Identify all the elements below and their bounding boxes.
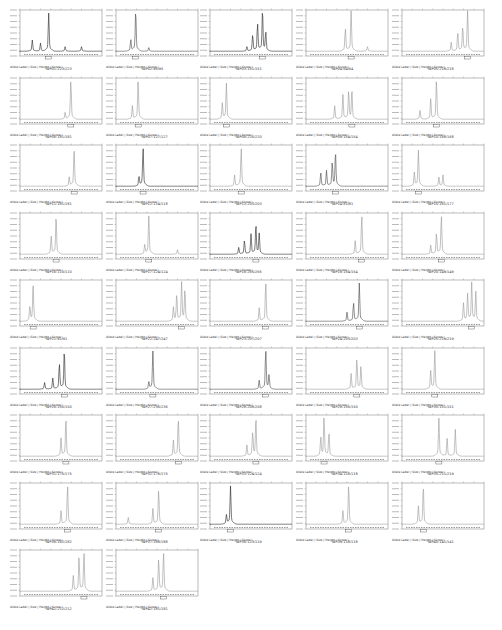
trace-plot — [198, 139, 294, 199]
electropherogram-panel: Allele Label | Size | Height | Score |WP… — [390, 207, 486, 275]
trace-plot — [104, 409, 200, 469]
trace-plot — [294, 409, 390, 469]
sample-label: WP23:207/207 — [236, 337, 262, 341]
trace-plot — [8, 274, 104, 334]
electropherogram-panel: Allele Label | Size | Height | Score |WP… — [104, 139, 200, 207]
sample-label: WP02:95/95 — [142, 67, 163, 71]
electropherogram-panel: Allele Label | Size | Height | Score |WP… — [8, 342, 104, 410]
sample-label: WP18:265/265 — [236, 270, 262, 274]
electropherogram-panel: Allele Label | Size | Height | Score |WP… — [8, 4, 104, 72]
trace-plot — [390, 409, 486, 469]
sample-label: WP33:124/124 — [236, 472, 262, 476]
sample-label: WP25:219/219 — [428, 337, 454, 341]
sample-label: WP22:247/247 — [142, 337, 168, 341]
sample-label: WP24:203/203 — [332, 337, 358, 341]
electropherogram-panel: Allele Label | Size | Height | Score |WP… — [198, 72, 294, 140]
sample-label: WP12:114/118 — [142, 202, 168, 206]
trace-plot — [8, 409, 104, 469]
sample-label: WP11:181/181 — [46, 202, 72, 206]
sample-label: WP08:220/220 — [236, 135, 262, 139]
trace-plot — [198, 477, 294, 537]
sample-label: WP14:81/81 — [332, 202, 353, 206]
sample-label: WP20:149/149 — [428, 270, 454, 274]
trace-plot — [390, 72, 486, 132]
electropherogram-panel: Allele Label | Size | Height | Score |WP… — [198, 409, 294, 477]
sample-label: WP07:127/127 — [142, 135, 168, 139]
trace-plot — [8, 207, 104, 267]
electropherogram-grid: Allele Label | Size | Height | Score |WP… — [0, 0, 502, 630]
trace-plot — [198, 207, 294, 267]
sample-label: WP26:150/150 — [46, 405, 72, 409]
sample-label: WP37:188/188 — [142, 540, 168, 544]
trace-plot — [8, 72, 104, 132]
electropherogram-panel: Allele Label | Size | Height | Score |WP… — [294, 4, 390, 72]
electropherogram-panel: Allele Label | Size | Height | Score |WP… — [104, 4, 200, 72]
sample-label: WP38:123/119 — [236, 540, 262, 544]
electropherogram-panel: Allele Label | Size | Height | Score |WP… — [294, 342, 390, 410]
electropherogram-panel: Allele Label | Size | Height | Score |WP… — [104, 477, 200, 545]
sample-label: WP35:211/219 — [428, 472, 454, 476]
sample-label: WP36:182/182 — [46, 540, 72, 544]
trace-plot — [8, 544, 104, 604]
electropherogram-panel: Allele Label | Size | Height | Score |WP… — [104, 72, 200, 140]
electropherogram-panel: Allele Label | Size | Height | Score |WP… — [8, 409, 104, 477]
electropherogram-panel: Allele Label | Size | Height | Score |WP… — [390, 477, 486, 545]
trace-plot — [294, 342, 390, 402]
sample-label: WP21:91/91 — [46, 337, 67, 341]
trace-plot — [8, 477, 104, 537]
electropherogram-panel: Allele Label | Size | Height | Score |WP… — [294, 409, 390, 477]
trace-plot — [198, 342, 294, 402]
trace-plot — [198, 409, 294, 469]
electropherogram-panel: Allele Label | Size | Height | Score |WP… — [104, 274, 200, 342]
electropherogram-panel: Allele Label | Size | Height | Score |WP… — [390, 72, 486, 140]
electropherogram-panel: Allele Label | Size | Height | Score |WP… — [294, 207, 390, 275]
trace-plot — [390, 207, 486, 267]
electropherogram-panel: Allele Label | Size | Height | Score |WP… — [294, 477, 390, 545]
electropherogram-panel: Allele Label | Size | Height | Score |WP… — [390, 342, 486, 410]
sample-label: WP09:154/154 — [332, 135, 358, 139]
trace-plot — [8, 4, 104, 64]
electropherogram-panel: Allele Label | Size | Height | Score |WP… — [198, 207, 294, 275]
electropherogram-panel: Allele Label | Size | Height | Score |WP… — [198, 274, 294, 342]
sample-label: WP16:110/110 — [46, 270, 72, 274]
trace-plot — [198, 274, 294, 334]
sample-label: WP04:64/64 — [332, 67, 353, 71]
trace-plot — [294, 72, 390, 132]
sample-label: WP39:118/118 — [332, 540, 358, 544]
sample-label: WP42:181/181 — [142, 607, 168, 611]
sample-label: WP34:118/118 — [332, 472, 358, 476]
trace-plot — [390, 139, 486, 199]
trace-plot — [294, 207, 390, 267]
electropherogram-panel: Allele Label | Size | Height | Score |WP… — [198, 477, 294, 545]
trace-plot — [104, 72, 200, 132]
electropherogram-panel: Allele Label | Size | Height | Score |WP… — [294, 274, 390, 342]
electropherogram-panel: Allele Label | Size | Height | Score |WP… — [8, 72, 104, 140]
trace-plot — [198, 72, 294, 132]
electropherogram-panel: Allele Label | Size | Height | Score |WP… — [390, 274, 486, 342]
electropherogram-panel: Allele Label | Size | Height | Score |WP… — [294, 72, 390, 140]
sample-label: WP10:168/168 — [428, 135, 454, 139]
sample-label: WP30:151/151 — [428, 405, 454, 409]
sample-label: WP31:175/175 — [46, 472, 72, 476]
sample-label: WP06:181/181 — [46, 135, 72, 139]
trace-plot — [104, 342, 200, 402]
sample-label: WP01:223/223 — [46, 67, 72, 71]
sample-label: WP13:203/203 — [236, 202, 262, 206]
trace-plot — [390, 274, 486, 334]
electropherogram-panel: Allele Label | Size | Height | Score |WP… — [390, 409, 486, 477]
electropherogram-panel: Allele Label | Size | Height | Score |WP… — [8, 274, 104, 342]
electropherogram-panel: Allele Label | Size | Height | Score |WP… — [8, 207, 104, 275]
trace-plot — [104, 544, 200, 604]
electropherogram-panel: Allele Label | Size | Height | Score |WP… — [198, 139, 294, 207]
trace-plot — [294, 477, 390, 537]
electropherogram-panel: Allele Label | Size | Height | Score |WP… — [104, 544, 200, 612]
trace-plot — [104, 139, 200, 199]
electropherogram-panel: Allele Label | Size | Height | Score |WP… — [390, 4, 486, 72]
sample-label: WP40:141/141 — [428, 540, 454, 544]
electropherogram-panel: Allele Label | Size | Height | Score |WP… — [104, 207, 200, 275]
trace-plot — [104, 274, 200, 334]
trace-plot — [390, 4, 486, 64]
electropherogram-panel: Allele Label | Size | Height | Score |WP… — [8, 139, 104, 207]
trace-plot — [8, 342, 104, 402]
trace-plot — [294, 139, 390, 199]
